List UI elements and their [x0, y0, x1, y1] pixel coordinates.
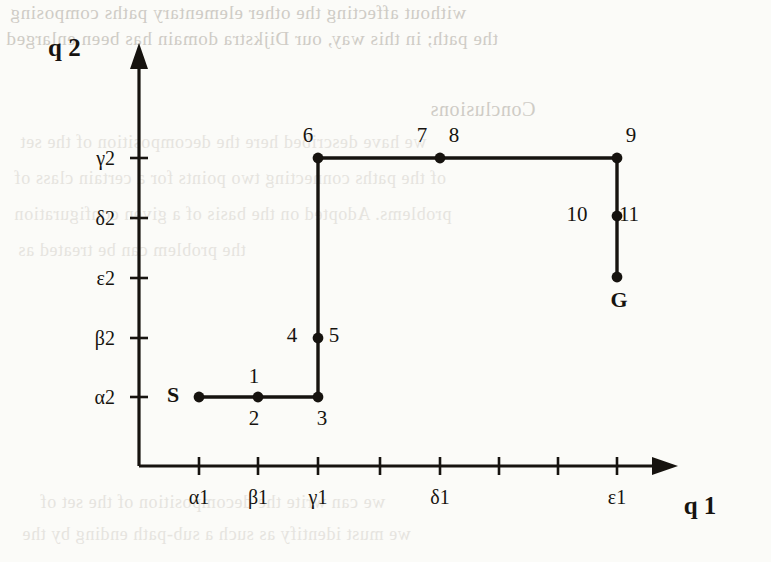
y-tick-label: β2: [95, 327, 115, 350]
route-polyline: [199, 158, 617, 397]
path-node-dot: [612, 272, 623, 283]
x-tick-label: γ1: [308, 486, 328, 509]
path-node-dot: [612, 153, 623, 164]
x-axis-title: q 1: [684, 492, 717, 519]
path-node-label: 3: [317, 406, 328, 430]
path-nodes-group: S1234567891011G: [167, 123, 639, 430]
path-node-label: 7: [417, 123, 428, 147]
y-tick-label: δ2: [96, 207, 115, 229]
path-node-label: S: [167, 382, 179, 407]
path-node-dot: [253, 392, 264, 403]
x-tick-label: α1: [189, 486, 209, 508]
y-tick-label: ε2: [97, 267, 115, 289]
path-node-label: 4: [287, 323, 298, 347]
path-node-dot: [313, 153, 324, 164]
axes-group: [130, 43, 678, 475]
y-tick-label: α2: [95, 386, 115, 408]
x-axis-arrowhead: [652, 457, 678, 475]
path-node-label: 9: [626, 123, 637, 147]
x-tick-label: ε1: [608, 486, 626, 508]
path-node-dot: [313, 333, 324, 344]
y-axis-title: q 2: [48, 34, 81, 61]
path-node-label: 6: [303, 123, 314, 147]
path-node-label: 11: [619, 202, 639, 226]
path-diagram: α1β1γ1δ1ε1 γ2δ2ε2β2α2 S1234567891011G q …: [0, 0, 771, 562]
path-node-label: G: [610, 287, 627, 312]
x-tick-label: δ1: [430, 486, 449, 508]
y-tick-label: γ2: [95, 147, 115, 170]
path-node-label: 2: [249, 406, 260, 430]
path-node-label: 8: [449, 123, 460, 147]
path-node-dot: [313, 392, 324, 403]
x-tick-label: β1: [248, 486, 268, 509]
path-node-label: 5: [329, 323, 340, 347]
path-node-label: 10: [567, 202, 588, 226]
path-node-label: 1: [249, 364, 260, 388]
path-node-dot: [435, 153, 446, 164]
y-axis-arrowhead: [130, 43, 148, 69]
path-node-dot: [194, 392, 205, 403]
path-polyline-group: [199, 158, 617, 397]
scanned-page: without affecting the other elementary p…: [0, 0, 771, 562]
